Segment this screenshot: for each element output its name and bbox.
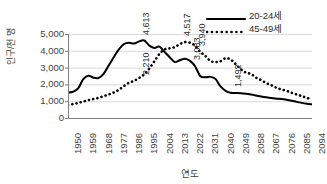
x-tick-label: 2013 bbox=[179, 133, 190, 154]
x-tick-label: 2004 bbox=[164, 133, 175, 154]
chart-legend: 20-24세45-49세 bbox=[206, 8, 316, 34]
data-label: 4,517 bbox=[182, 14, 192, 37]
x-tick-label: 1986 bbox=[133, 133, 144, 154]
legend-swatch-icon bbox=[206, 23, 246, 33]
gridlines bbox=[68, 35, 312, 119]
y-tick-label: 0 bbox=[20, 113, 64, 123]
y-tick-label: 3,000 bbox=[20, 63, 64, 73]
x-tick-label: 2085 bbox=[301, 133, 312, 154]
data-label: 3,083 bbox=[192, 38, 202, 61]
y-axis-title: 인구/천 명 bbox=[4, 5, 17, 89]
data-label: 2,210 bbox=[141, 52, 151, 75]
x-tick-label: 1959 bbox=[87, 133, 98, 154]
legend-label: 45-49세 bbox=[249, 21, 282, 35]
x-tick-label: 2022 bbox=[194, 133, 205, 154]
x-tick-label: 1995 bbox=[148, 133, 159, 154]
series-lines bbox=[68, 40, 312, 105]
legend-swatch-icon bbox=[206, 10, 246, 20]
data-label: 1,492 bbox=[233, 64, 243, 87]
x-tick-label: 2049 bbox=[240, 133, 251, 154]
x-tick-label: 2067 bbox=[270, 133, 281, 154]
x-tick-label: 2040 bbox=[225, 133, 236, 154]
y-tick-label: 1,000 bbox=[20, 96, 64, 106]
plot-area bbox=[68, 34, 312, 118]
x-axis-tick-labels: 1950195919681977198619952004201320222031… bbox=[68, 118, 312, 162]
x-tick-label: 2031 bbox=[209, 133, 220, 154]
legend-item: 45-49세 bbox=[206, 21, 316, 34]
x-tick-label: 1950 bbox=[72, 133, 83, 154]
plot-svg bbox=[68, 34, 312, 118]
x-tick-label: 2058 bbox=[255, 133, 266, 154]
x-tick-label: 2076 bbox=[286, 133, 297, 154]
y-tick-label: 4,000 bbox=[20, 46, 64, 56]
legend-label: 20-24세 bbox=[249, 8, 282, 22]
x-tick-label: 1968 bbox=[103, 133, 114, 154]
x-tick-label: 1977 bbox=[118, 133, 129, 154]
legend-item: 20-24세 bbox=[206, 8, 316, 21]
x-axis-title: 연도 bbox=[68, 166, 312, 180]
y-axis-tick-labels: 01,0002,0003,0004,0005,000 bbox=[18, 0, 64, 184]
data-label: 4,613 bbox=[141, 12, 151, 35]
x-tick-label: 2094 bbox=[316, 133, 327, 154]
y-tick-label: 5,000 bbox=[20, 29, 64, 39]
y-tick-label: 2,000 bbox=[20, 79, 64, 89]
